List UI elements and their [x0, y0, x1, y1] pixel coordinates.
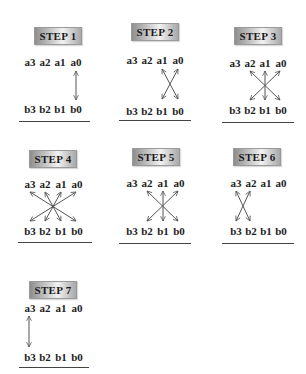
step-7-arrows: [0, 0, 306, 374]
